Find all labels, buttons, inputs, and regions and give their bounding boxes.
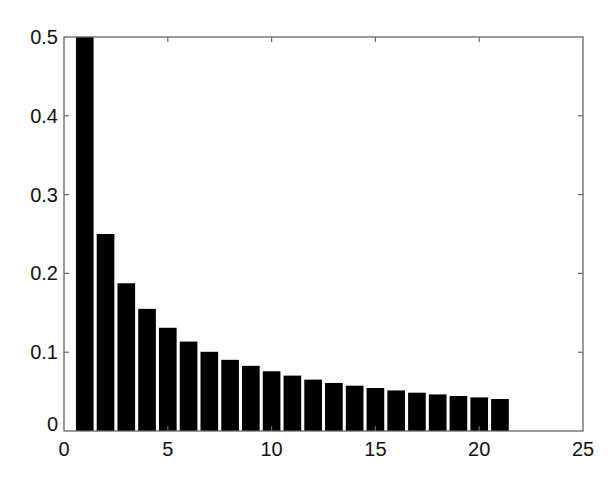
bars: [76, 37, 509, 431]
bar-chart: 00.10.20.30.40.5 0510152025: [0, 0, 611, 489]
x-tick-label: 20: [468, 438, 490, 460]
bar-8: [221, 360, 239, 431]
y-tick-label: 0.1: [30, 341, 58, 363]
bar-3: [117, 283, 135, 431]
bar-7: [201, 352, 219, 431]
figure-caption: [0, 478, 611, 489]
bar-16: [387, 390, 405, 431]
x-tick-label: 10: [260, 438, 282, 460]
x-tick-label: 5: [162, 438, 173, 460]
bar-11: [284, 376, 302, 431]
y-tick-label: 0.4: [30, 105, 58, 127]
bar-13: [325, 383, 343, 431]
bar-20: [470, 397, 488, 431]
bar-14: [346, 386, 364, 431]
bar-5: [159, 328, 177, 431]
bar-1: [76, 37, 94, 431]
bar-18: [429, 394, 447, 431]
bar-10: [263, 371, 281, 431]
bar-2: [97, 234, 115, 431]
y-tick-label: 0.5: [30, 26, 58, 48]
x-tick-label: 0: [58, 438, 69, 460]
y-tick-label: 0: [47, 413, 58, 435]
y-tick-label: 0.3: [30, 184, 58, 206]
bar-9: [242, 366, 260, 431]
bar-17: [408, 393, 426, 431]
bar-4: [138, 309, 156, 431]
y-tick-label: 0.2: [30, 262, 58, 284]
x-tick-label: 15: [364, 438, 386, 460]
bar-21: [491, 399, 509, 431]
bar-15: [367, 388, 385, 431]
x-tick-label: 25: [572, 438, 594, 460]
bar-12: [304, 380, 322, 431]
bar-6: [180, 342, 198, 431]
bar-19: [450, 396, 468, 431]
